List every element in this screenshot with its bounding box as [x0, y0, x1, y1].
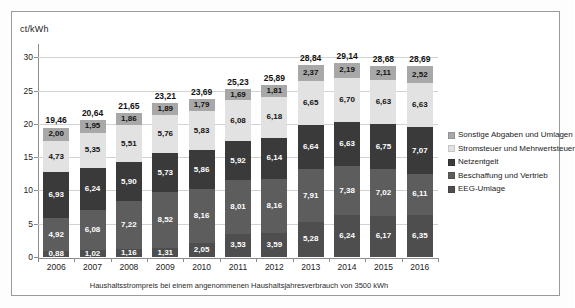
- bar-segment: 1,81: [261, 85, 287, 97]
- y-axis-tick-mark: [34, 91, 38, 92]
- bar-segment: 6,08: [225, 100, 251, 140]
- x-axis-tick-label-2016: 2016: [397, 262, 443, 272]
- bar-segment: 3,59: [261, 233, 287, 257]
- bar-segment: 7,02: [370, 169, 396, 216]
- bar-2014[interactable]: 6,247,386,636,702,19: [334, 63, 360, 257]
- y-axis-tick-label: 0: [11, 252, 33, 262]
- bar-segment: 5,83: [189, 111, 215, 150]
- bar-total-label: 21,65: [106, 101, 152, 111]
- bar-2016[interactable]: 6,356,117,076,632,52: [407, 66, 433, 257]
- bar-2012[interactable]: 3,598,166,146,181,81: [261, 85, 287, 257]
- x-axis-line: [38, 258, 439, 259]
- bar-2013[interactable]: 5,287,916,646,652,37: [298, 65, 324, 257]
- bar-2009[interactable]: 1,318,525,735,761,89: [152, 103, 178, 257]
- legend-item-label: Beschaffung und Vertrieb: [458, 172, 548, 180]
- legend-item-4[interactable]: EEG-Umlage: [448, 185, 575, 193]
- plot-area: 0,884,926,934,732,001,026,086,245,351,95…: [38, 44, 438, 257]
- x-axis-tick-mark: [147, 258, 148, 262]
- y-axis-tick-label: 25: [11, 86, 33, 96]
- bar-segment: 2,00: [43, 128, 69, 141]
- bar-segment: 6,75: [370, 124, 396, 169]
- bar-segment: 2,52: [407, 66, 433, 83]
- bar-total-label: 23,69: [179, 87, 225, 97]
- bar-segment: 5,28: [298, 222, 324, 257]
- bar-segment: 6,63: [370, 80, 396, 124]
- bar-segment: 5,86: [189, 150, 215, 189]
- bar-segment: 1,02: [80, 250, 106, 257]
- bar-segment: 1,79: [189, 99, 215, 111]
- x-axis-tick-mark: [183, 258, 184, 262]
- bar-segment: 5,92: [225, 141, 251, 180]
- y-axis-tick-label: 30: [11, 52, 33, 62]
- x-axis-tick-mark: [38, 258, 39, 262]
- x-axis-tick-mark: [402, 258, 403, 262]
- bar-segment: 6,24: [80, 168, 106, 210]
- bar-segment: 7,07: [407, 127, 433, 174]
- legend-item-2[interactable]: Netzentgelt: [448, 158, 575, 166]
- bar-segment: 5,35: [80, 133, 106, 169]
- bar-2008[interactable]: 1,167,225,905,511,86: [116, 113, 142, 257]
- x-axis-tick-mark: [111, 258, 112, 262]
- bar-2015[interactable]: 6,177,026,756,632,11: [370, 66, 396, 257]
- bar-segment: 6,14: [261, 138, 287, 179]
- bar-segment: 2,37: [298, 65, 324, 81]
- legend-item-label: Stromsteuer und Mehrwertsteuer: [458, 145, 575, 153]
- legend-item-0[interactable]: Sonstige Abgaben und Umlagen: [448, 131, 575, 139]
- legend-item-1[interactable]: Stromsteuer und Mehrwertsteuer: [448, 145, 575, 153]
- bar-segment: 1,31: [152, 248, 178, 257]
- bar-segment: 0,88: [43, 251, 69, 257]
- legend-item-label: Netzentgelt: [458, 158, 498, 166]
- x-axis-tick-mark: [220, 258, 221, 262]
- bar-segment: 6,93: [43, 172, 69, 218]
- bar-segment: 1,89: [152, 103, 178, 116]
- legend-swatch-icon: [448, 145, 455, 152]
- chart-legend: Sonstige Abgaben und UmlagenStromsteuer …: [448, 131, 575, 199]
- legend-swatch-icon: [448, 186, 455, 193]
- bar-segment: 8,52: [152, 192, 178, 249]
- legend-swatch-icon: [448, 172, 455, 179]
- bar-segment: 7,91: [298, 169, 324, 222]
- bar-segment: 2,19: [334, 63, 360, 78]
- x-axis-tick-mark: [293, 258, 294, 262]
- bar-segment: 5,73: [152, 153, 178, 191]
- x-axis-tick-mark: [365, 258, 366, 262]
- bar-segment: 6,64: [298, 125, 324, 169]
- bar-2006[interactable]: 0,884,926,934,732,00: [43, 127, 69, 257]
- y-axis-tick-label: 5: [11, 219, 33, 229]
- y-axis-tick-mark: [34, 190, 38, 191]
- bar-segment: 1,86: [116, 113, 142, 125]
- y-axis-tick-mark: [34, 224, 38, 225]
- bar-segment: 2,11: [370, 66, 396, 80]
- bar-segment: 6,63: [407, 83, 433, 127]
- bar-segment: 4,92: [43, 218, 69, 251]
- x-axis-tick-mark: [438, 258, 439, 262]
- bar-2007[interactable]: 1,026,086,245,351,95: [80, 120, 106, 257]
- bar-segment: 5,76: [152, 115, 178, 153]
- bar-segment: 6,70: [334, 78, 360, 123]
- bar-segment: 6,17: [370, 216, 396, 257]
- legend-swatch-icon: [448, 132, 455, 139]
- bar-total-label: 28,69: [397, 54, 443, 64]
- bar-segment: 6,08: [80, 210, 106, 250]
- bar-segment: 3,53: [225, 234, 251, 257]
- bar-segment: 8,01: [225, 180, 251, 233]
- bar-segment: 4,73: [43, 141, 69, 172]
- y-axis-tick-mark: [34, 157, 38, 158]
- bar-segment: 6,65: [298, 81, 324, 125]
- bar-segment: 8,16: [189, 189, 215, 243]
- legend-item-3[interactable]: Beschaffung und Vertrieb: [448, 172, 575, 180]
- bar-segment: 2,05: [189, 243, 215, 257]
- bar-segment: 6,63: [334, 122, 360, 166]
- y-axis-tick-label: 10: [11, 185, 33, 195]
- bar-segment: 5,90: [116, 162, 142, 201]
- bar-segment: 7,22: [116, 201, 142, 249]
- x-axis-tick-mark: [256, 258, 257, 262]
- bar-2010[interactable]: 2,058,165,865,831,79: [189, 99, 215, 257]
- bar-segment: 7,38: [334, 166, 360, 215]
- x-axis-tick-mark: [74, 258, 75, 262]
- bar-2011[interactable]: 3,538,015,926,081,69: [225, 89, 251, 257]
- y-axis-tick-mark: [34, 57, 38, 58]
- legend-item-label: Sonstige Abgaben und Umlagen: [458, 131, 573, 139]
- bar-segment: 1,16: [116, 249, 142, 257]
- bar-segment: 6,11: [407, 174, 433, 215]
